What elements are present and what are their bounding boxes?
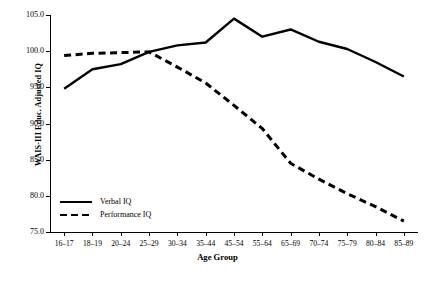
legend-item-performance-iq: Performance IQ bbox=[60, 208, 151, 221]
legend-key-solid-icon bbox=[60, 197, 92, 207]
y-tick-label: 85.0 bbox=[8, 156, 44, 164]
x-tick bbox=[234, 232, 235, 236]
legend-key-dashed-icon bbox=[60, 210, 92, 220]
x-tick bbox=[291, 232, 292, 236]
x-tick bbox=[319, 232, 320, 236]
y-axis-title: WAIS-III Educ. Adjusted IQ bbox=[34, 15, 43, 215]
x-tick bbox=[149, 232, 150, 236]
x-tick bbox=[404, 232, 405, 236]
legend-label-verbal-iq: Verbal IQ bbox=[100, 197, 131, 206]
x-tick bbox=[92, 232, 93, 236]
chart-figure: WAIS-III Educ. Adjusted IQ 75.080.085.09… bbox=[0, 0, 435, 281]
x-tick bbox=[206, 232, 207, 236]
x-tick bbox=[177, 232, 178, 236]
y-tick-label: 90.0 bbox=[8, 120, 44, 128]
y-tick-label: 75.0 bbox=[8, 228, 44, 236]
x-tick bbox=[347, 232, 348, 236]
x-tick bbox=[376, 232, 377, 236]
x-tick-label: 85–89 bbox=[381, 239, 427, 248]
x-tick bbox=[262, 232, 263, 236]
x-tick bbox=[64, 232, 65, 236]
chart-legend: Verbal IQ Performance IQ bbox=[60, 195, 151, 221]
y-tick-label: 105.0 bbox=[8, 11, 44, 19]
legend-label-performance-iq: Performance IQ bbox=[100, 210, 151, 219]
legend-item-verbal-iq: Verbal IQ bbox=[60, 195, 151, 208]
y-tick-label: 80.0 bbox=[8, 192, 44, 200]
x-tick bbox=[121, 232, 122, 236]
y-tick-label: 95.0 bbox=[8, 83, 44, 91]
y-tick bbox=[46, 232, 50, 233]
y-tick-label: 100.0 bbox=[8, 47, 44, 55]
x-axis-title: Age Group bbox=[0, 252, 435, 262]
